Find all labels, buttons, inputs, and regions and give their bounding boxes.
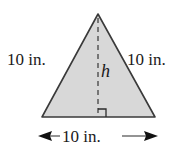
- arrow-right-icon: [144, 131, 158, 141]
- height-label: h: [101, 62, 110, 80]
- right-side-length-label: 10 in.: [127, 51, 166, 68]
- triangle-figure: 10 in. 10 in. 10 in. h: [0, 0, 185, 153]
- base-length-label: 10 in.: [62, 128, 101, 145]
- arrow-left-icon: [38, 131, 52, 141]
- left-side-length-label: 10 in.: [7, 51, 46, 68]
